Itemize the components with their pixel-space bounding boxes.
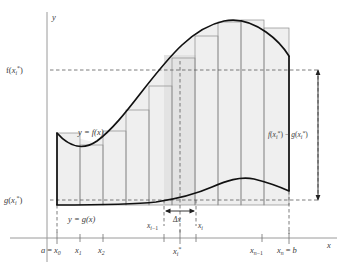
rect-fill-9: [241, 20, 264, 205]
x-tick-label-x1: x1: [74, 245, 82, 256]
figure-canvas: y x f(xi*) g(xi*) f(xi*)−g(xi*) y = f(x)…: [0, 0, 347, 275]
rect-fill-8: [218, 22, 241, 205]
y-tick-label-g-star: g(xi*): [4, 195, 22, 206]
rect-fill-3: [103, 131, 126, 205]
x-tick-label-xi-minus-1: xi−1: [146, 221, 158, 231]
x-tick-label-xi-star: xi*: [172, 246, 181, 257]
delta-x-label: Δx: [172, 215, 181, 224]
delta-x-arrowhead-left: [165, 209, 171, 214]
riemann-sum-figure: y x f(xi*) g(xi*) f(xi*)−g(xi*) y = f(x)…: [0, 0, 347, 275]
x-tick-label-xi: xi: [197, 221, 203, 231]
x-tick-label-xn-minus-1: xn−1: [249, 245, 263, 256]
curve-label-g: y = g(x): [67, 214, 96, 224]
height-difference-label: f(xi*)−g(xi*): [268, 130, 308, 141]
x-tick-label-x0: a=x0: [41, 245, 61, 256]
y-tick-label-f-star: f(xi*): [6, 65, 23, 76]
rect-fill-2: [80, 145, 103, 205]
rect-fill-4: [126, 110, 149, 205]
rect-fill-1: [57, 133, 80, 205]
rect-fill-10: [264, 28, 289, 205]
x-tick-label-xn: xn=b: [276, 245, 297, 256]
height-difference-arrow: [316, 69, 321, 201]
curve-label-f: y = f(x): [77, 127, 104, 137]
x-axis-ticks: [57, 230, 289, 244]
x-tick-label-x2: x2: [97, 245, 105, 256]
x-axis-label: x: [326, 240, 331, 250]
rect-fill-7: [195, 36, 218, 205]
y-axis-label: y: [51, 12, 56, 22]
delta-x-arrowhead-right: [190, 209, 196, 214]
